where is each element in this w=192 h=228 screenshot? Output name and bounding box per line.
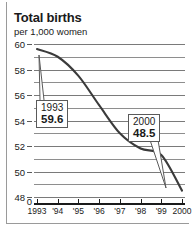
chart-figure: Total births per 1,000 women 60585654525… [0, 0, 192, 228]
callout-2000-year: 2000 [133, 116, 155, 127]
callout-2000: 2000 48.5 [128, 114, 160, 142]
callout-1993-year: 1993 [41, 102, 63, 113]
callout-2000-value: 48.5 [133, 127, 155, 139]
callout-1993: 1993 59.6 [36, 100, 68, 128]
callout-leader-lines [0, 0, 192, 228]
callout-1993-value: 59.6 [41, 113, 63, 125]
